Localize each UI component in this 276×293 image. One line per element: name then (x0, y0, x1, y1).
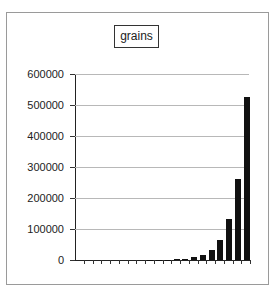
y-tick-label: 100000 (18, 223, 64, 235)
x-tick (180, 260, 181, 264)
bar-19 (235, 179, 241, 260)
x-tick (101, 260, 102, 264)
y-tick-label: 500000 (18, 99, 64, 111)
x-tick (136, 260, 137, 264)
x-tick (206, 260, 207, 264)
gridline (75, 105, 249, 106)
y-tick-label: 400000 (18, 130, 64, 142)
x-tick (233, 260, 234, 264)
y-tick-label: 0 (18, 254, 64, 266)
x-tick (250, 260, 251, 264)
chart-title: grains (114, 25, 159, 48)
y-tick (70, 260, 75, 261)
bar-15 (200, 255, 206, 260)
gridline (75, 136, 249, 137)
x-tick (93, 260, 94, 264)
x-tick (145, 260, 146, 264)
bar-17 (217, 240, 223, 260)
y-tick-label: 600000 (18, 68, 64, 80)
x-tick (154, 260, 155, 264)
x-tick (215, 260, 216, 264)
bar-18 (226, 219, 232, 260)
x-tick (198, 260, 199, 264)
x-tick (241, 260, 242, 264)
bar-20 (244, 97, 250, 260)
x-tick (163, 260, 164, 264)
y-tick-label: 300000 (18, 161, 64, 173)
bar-12 (174, 259, 180, 260)
x-tick (128, 260, 129, 264)
x-tick (84, 260, 85, 264)
x-tick (189, 260, 190, 264)
bar-16 (209, 250, 215, 260)
bar-14 (191, 257, 197, 260)
bar-13 (182, 259, 188, 260)
gridline (75, 74, 249, 75)
x-tick (171, 260, 172, 264)
x-tick (224, 260, 225, 264)
gridline (75, 167, 249, 168)
x-tick (110, 260, 111, 264)
x-tick (119, 260, 120, 264)
gridline (75, 198, 249, 199)
y-tick-label: 200000 (18, 192, 64, 204)
gridline (75, 229, 249, 230)
